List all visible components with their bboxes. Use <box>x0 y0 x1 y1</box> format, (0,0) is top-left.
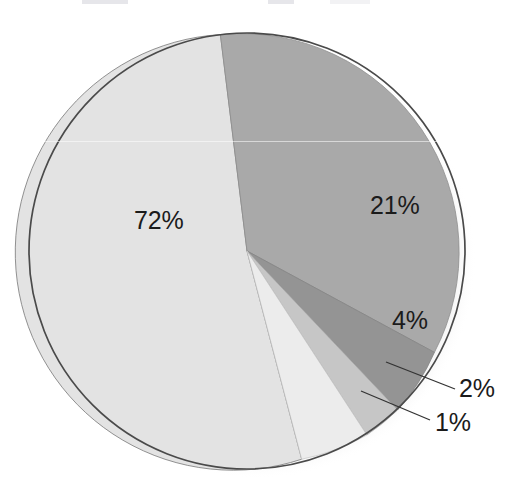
pie-label-2: 2% <box>459 376 495 401</box>
pie-label-1: 1% <box>435 410 471 435</box>
pie-label-4: 4% <box>392 308 428 333</box>
pie-label-72: 72% <box>134 208 183 233</box>
pie-chart-figure: 72% 21% 4% 2% 1% <box>0 0 515 496</box>
pie-label-21: 21% <box>370 193 419 218</box>
